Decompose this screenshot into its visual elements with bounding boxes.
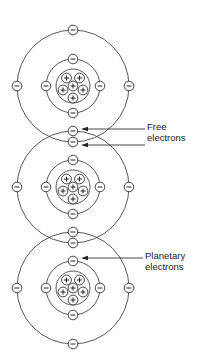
nucleus (56, 271, 90, 305)
electron (68, 209, 78, 219)
planetary-electrons-label: Planetary electrons (145, 250, 185, 272)
proton (62, 73, 72, 83)
free-label-line-2: electrons (147, 132, 186, 143)
electron (68, 227, 78, 237)
proton (68, 81, 78, 91)
electron (68, 108, 78, 118)
free-electrons-label: Free electrons (147, 121, 186, 143)
electron (68, 339, 78, 349)
electron (41, 81, 51, 91)
proton (68, 283, 78, 293)
proton (78, 85, 88, 95)
electron (41, 182, 51, 192)
electron (95, 283, 105, 293)
atoms-layer (12, 25, 134, 349)
electron (124, 81, 134, 91)
proton (58, 287, 68, 297)
electron (124, 182, 134, 192)
electron (12, 81, 22, 91)
electron (68, 126, 78, 136)
planetary-label-line-1: Planetary (145, 250, 185, 261)
proton (58, 186, 68, 196)
free-label-line-1: Free (147, 121, 186, 132)
nucleus (56, 69, 90, 103)
nucleus (56, 170, 90, 204)
proton (78, 287, 88, 297)
atom-diagram (0, 0, 205, 363)
proton (75, 73, 85, 83)
electron (68, 155, 78, 165)
proton (62, 174, 72, 184)
electron (41, 283, 51, 293)
proton (68, 182, 78, 192)
arrowhead-icon (81, 127, 88, 131)
arrow-free-electrons (81, 143, 145, 147)
electron (68, 256, 78, 266)
electron (68, 54, 78, 64)
proton (58, 85, 68, 95)
electron (124, 283, 134, 293)
proton (78, 186, 88, 196)
proton (68, 295, 78, 305)
electron (68, 137, 78, 147)
proton (68, 194, 78, 204)
arrow-free-electrons (81, 127, 145, 131)
electron (95, 182, 105, 192)
electron (68, 238, 78, 248)
arrowhead-icon (81, 256, 88, 260)
proton (75, 275, 85, 285)
arrow-planetary-electrons (81, 256, 143, 260)
proton (68, 93, 78, 103)
electron (68, 25, 78, 35)
electron (95, 81, 105, 91)
proton (75, 174, 85, 184)
proton (62, 275, 72, 285)
electron (12, 283, 22, 293)
planetary-label-line-2: electrons (145, 261, 185, 272)
electron (68, 310, 78, 320)
arrowhead-icon (81, 143, 88, 147)
electron (12, 182, 22, 192)
